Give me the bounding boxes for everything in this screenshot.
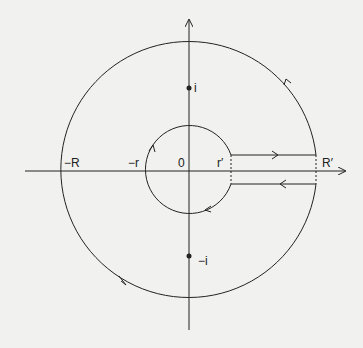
point-i: [187, 86, 192, 91]
contour-diagram: −R −r 0 r′ R′ i −i: [0, 0, 363, 348]
label-neg-R: −R: [64, 156, 80, 170]
label-R-prime: R′: [322, 156, 334, 170]
label-neg-r: −r: [128, 156, 139, 170]
outer-circle: [61, 41, 316, 297]
label-neg-i: −i: [198, 254, 208, 268]
label-i: i: [194, 81, 197, 95]
point-neg-i: [187, 254, 192, 259]
label-r-prime: r′: [217, 156, 224, 170]
label-origin: 0: [178, 156, 185, 170]
arrow-outer-top-right: [284, 79, 291, 85]
